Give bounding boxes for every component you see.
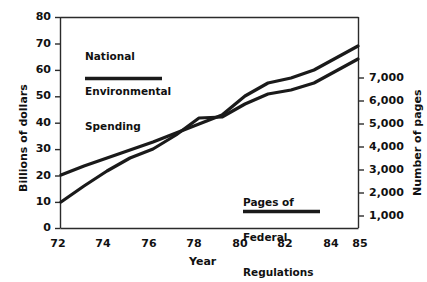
legend-line-3: Regulations bbox=[243, 267, 313, 279]
right-tick-label-5000: 5,000 bbox=[369, 118, 404, 131]
right-tick-label-7000: 7,000 bbox=[369, 72, 404, 85]
left-tick-label-10: 10 bbox=[29, 196, 51, 209]
x-tick-label-74: 74 bbox=[94, 238, 112, 251]
left-tick-label-60: 60 bbox=[29, 64, 51, 77]
y2-axis-title: Number of pages bbox=[412, 90, 425, 196]
x-tick-label-76: 76 bbox=[140, 238, 158, 251]
left-tick-label-0: 0 bbox=[29, 222, 51, 235]
left-tick-label-70: 70 bbox=[29, 38, 51, 51]
legend-label-pages-of-federal-regulations: Pages of Federal Regulations bbox=[243, 174, 313, 282]
legend-line-1: Pages of bbox=[243, 197, 313, 209]
left-tick-label-50: 50 bbox=[29, 90, 51, 103]
left-tick-label-80: 80 bbox=[29, 11, 51, 24]
legend-label-national-environmental-spending: National Environmental Spending bbox=[85, 28, 171, 156]
left-axis-ticks bbox=[55, 18, 61, 229]
x-axis-title: Year bbox=[189, 256, 216, 269]
right-axis-ticks bbox=[359, 78, 365, 216]
left-tick-label-40: 40 bbox=[29, 117, 51, 130]
left-tick-label-20: 20 bbox=[29, 170, 51, 183]
x-tick-label-78: 78 bbox=[185, 238, 203, 251]
legend-line-1: National bbox=[85, 51, 171, 63]
y-axis-title: Billions of dollars bbox=[18, 84, 31, 192]
x-tick-label-84: 84 bbox=[322, 238, 340, 251]
legend-line-3: Spending bbox=[85, 121, 171, 133]
right-tick-label-4000: 4,000 bbox=[369, 141, 404, 154]
legend-line-2: Federal bbox=[243, 232, 313, 244]
left-tick-label-30: 30 bbox=[29, 143, 51, 156]
legend-line-2: Environmental bbox=[85, 86, 171, 98]
right-tick-label-1000: 1,000 bbox=[369, 210, 404, 223]
x-tick-label-85: 85 bbox=[351, 238, 369, 251]
x-tick-label-72: 72 bbox=[49, 238, 67, 251]
right-tick-label-6000: 6,000 bbox=[369, 95, 404, 108]
right-tick-label-3000: 3,000 bbox=[369, 164, 404, 177]
right-tick-label-2000: 2,000 bbox=[369, 187, 404, 200]
